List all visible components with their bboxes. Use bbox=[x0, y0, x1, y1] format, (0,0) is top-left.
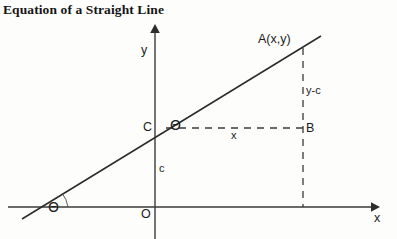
y-axis-label: y bbox=[141, 44, 147, 57]
diagram-page: Equation of a Straight Line y x O bbox=[0, 0, 397, 239]
point-a-label: A(x,y) bbox=[258, 33, 291, 46]
intercept-label: c bbox=[159, 163, 165, 174]
origin-label: O bbox=[141, 208, 151, 221]
theta-axis-label: Θ bbox=[48, 200, 59, 214]
point-c-label: C bbox=[143, 121, 152, 134]
x-axis-label: x bbox=[374, 212, 380, 225]
straight-line-diagram bbox=[0, 0, 397, 239]
angle-arc-x-axis bbox=[62, 193, 68, 207]
x-axis bbox=[8, 202, 380, 212]
rise-label: y-c bbox=[306, 85, 321, 96]
run-label: x bbox=[231, 130, 237, 141]
point-b-label: B bbox=[306, 122, 314, 135]
theta-c-label: Θ bbox=[170, 118, 181, 132]
